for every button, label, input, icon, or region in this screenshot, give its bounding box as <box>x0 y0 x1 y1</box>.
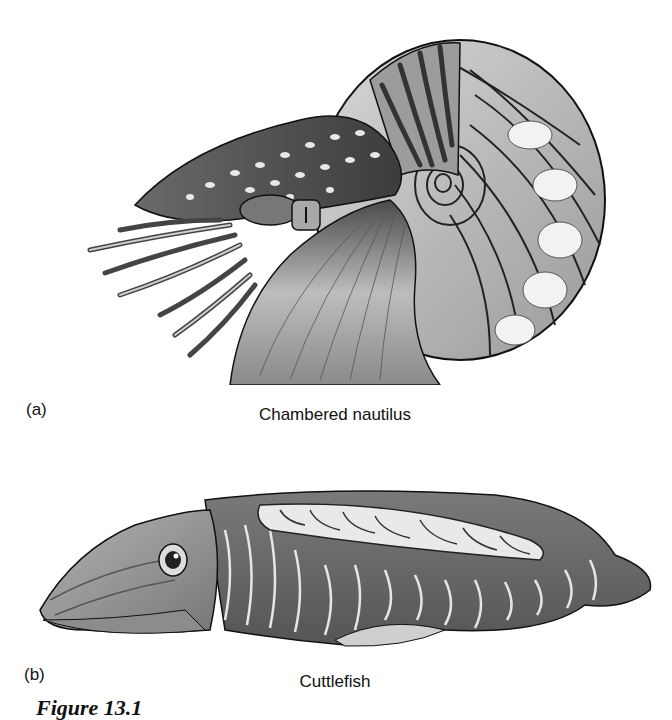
panel-label-a: (a) <box>26 400 47 420</box>
caption-chambered-nautilus: Chambered nautilus <box>200 405 470 425</box>
cuttlefish-illustration <box>25 470 665 650</box>
caption-cuttlefish: Cuttlefish <box>200 672 470 692</box>
figure-caption: Figure 13.1 <box>36 697 142 719</box>
nautilus-illustration <box>60 25 620 385</box>
panel-label-b: (b) <box>24 665 45 685</box>
